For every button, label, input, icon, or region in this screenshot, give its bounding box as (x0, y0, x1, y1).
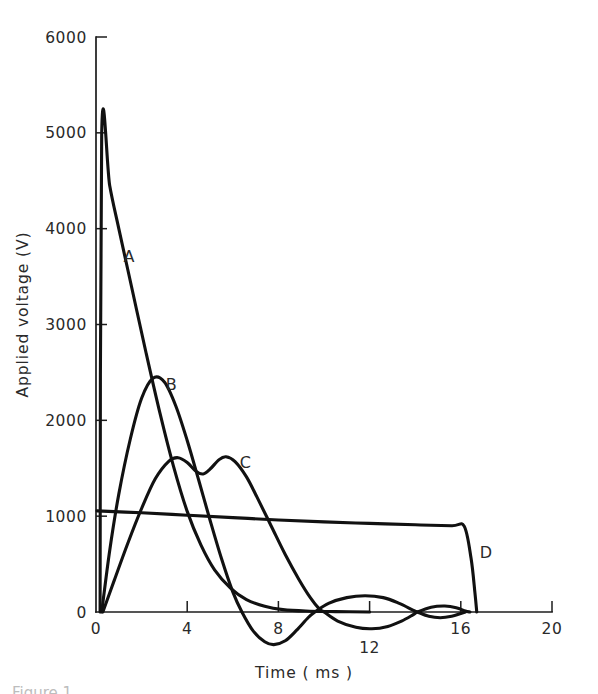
y-axis-title: Applied voltage (V) (14, 232, 32, 398)
x-axis-tick-label: 4 (182, 620, 192, 638)
data-curve-d (97, 511, 477, 612)
y-axis-tick-label: 6000 (45, 29, 87, 47)
curve-label-c: C (240, 453, 251, 472)
curve-label-b: B (166, 375, 177, 394)
y-axis-tick-label: 0 (77, 604, 87, 622)
x-axis-tick-label: 20 (542, 620, 563, 638)
y-axis-tick-label: 5000 (45, 124, 87, 142)
data-curve-b (102, 377, 466, 645)
x-axis-tick-label: 0 (91, 620, 101, 638)
axis-titles-group: Time ( ms )Applied voltage (V) (14, 232, 353, 682)
figure-root: 0100020003000400050006000048121620 ABCD … (0, 0, 598, 694)
x-axis-title: Time ( ms ) (254, 664, 353, 682)
curve-label-d: D (480, 543, 492, 562)
data-curves-group (97, 109, 477, 645)
tick-labels-group: 0100020003000400050006000048121620 (45, 29, 562, 658)
curve-label-a: A (124, 247, 135, 266)
data-curve-c (103, 457, 470, 629)
y-axis-tick-label: 4000 (45, 220, 87, 238)
ticks-group (96, 37, 552, 612)
figure-caption-partial: Figure 1 (12, 685, 72, 694)
line-chart: 0100020003000400050006000048121620 ABCD … (0, 0, 598, 694)
y-axis-tick-label: 1000 (45, 508, 87, 526)
y-axis-tick-label: 2000 (45, 412, 87, 430)
x-axis-tick-label: 8 (273, 620, 283, 638)
axes-group (96, 37, 552, 612)
x-axis-tick-label: 16 (450, 620, 471, 638)
y-axis-tick-label: 3000 (45, 316, 87, 334)
x-axis-tick-label: 12 (359, 639, 380, 657)
data-curve-a (100, 109, 370, 612)
